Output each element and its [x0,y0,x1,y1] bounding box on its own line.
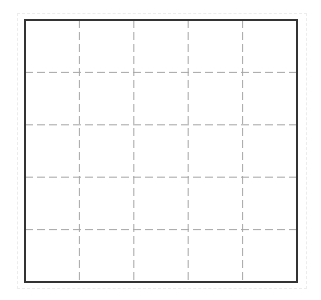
grid-lines [25,20,297,282]
grid-diagram [0,0,321,300]
diagram-canvas [0,0,321,300]
grid-border [25,20,297,282]
